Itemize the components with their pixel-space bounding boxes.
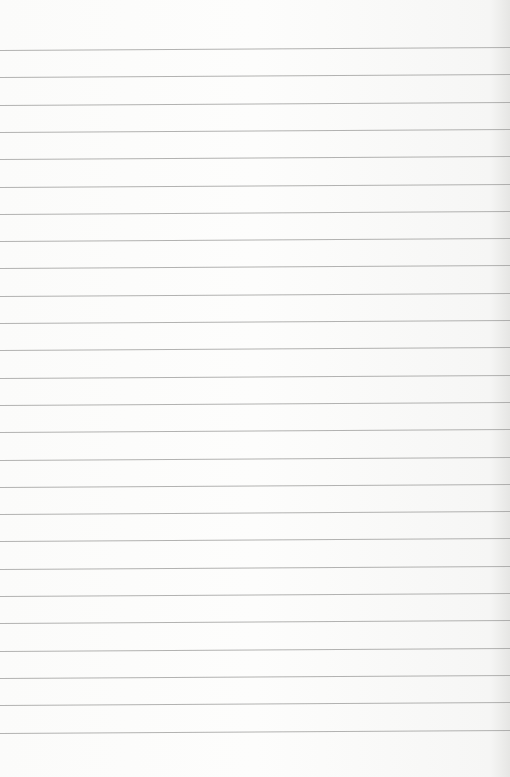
ruled-line <box>0 620 510 624</box>
ruled-line <box>0 183 510 187</box>
ruled-line <box>0 47 510 51</box>
ruled-line <box>0 702 510 706</box>
ruled-line <box>0 538 510 542</box>
ruled-line <box>0 429 510 433</box>
ruled-line <box>0 402 510 406</box>
ruled-line <box>0 347 510 351</box>
ruled-line <box>0 593 510 597</box>
ruled-lines <box>0 0 510 777</box>
lined-paper-sheet <box>0 0 510 777</box>
ruled-line <box>0 729 510 733</box>
ruled-line <box>0 374 510 378</box>
ruled-line <box>0 566 510 570</box>
ruled-line <box>0 293 510 297</box>
ruled-line <box>0 320 510 324</box>
ruled-line <box>0 511 510 515</box>
ruled-line <box>0 647 510 651</box>
ruled-line <box>0 129 510 133</box>
ruled-line <box>0 74 510 78</box>
ruled-line <box>0 238 510 242</box>
ruled-line <box>0 265 510 269</box>
ruled-line <box>0 211 510 215</box>
ruled-line <box>0 456 510 460</box>
ruled-line <box>0 101 510 105</box>
ruled-line <box>0 675 510 679</box>
ruled-line <box>0 156 510 160</box>
ruled-line <box>0 484 510 488</box>
